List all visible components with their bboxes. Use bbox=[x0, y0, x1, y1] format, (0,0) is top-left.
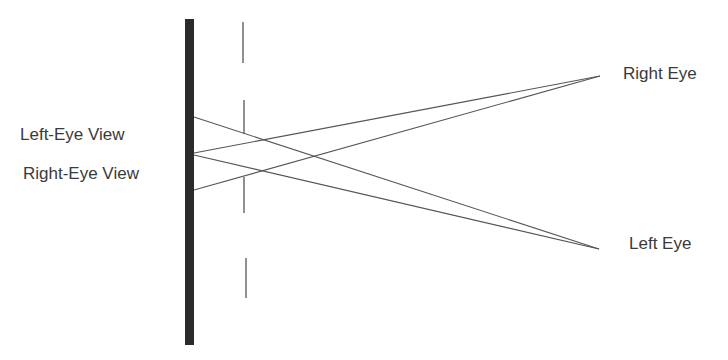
left-eye-view-label: Left-Eye View bbox=[20, 126, 125, 143]
ray-to-right-eye bbox=[194, 76, 600, 190]
left-eye-label: Left Eye bbox=[629, 235, 691, 252]
right-eye-label: Right Eye bbox=[623, 65, 697, 82]
display-screen-bar bbox=[185, 19, 194, 345]
ray-to-right-eye bbox=[194, 76, 600, 153]
view-rays bbox=[194, 76, 600, 249]
right-eye-view-label: Right-Eye View bbox=[23, 165, 139, 182]
parallax-barrier bbox=[243, 22, 246, 298]
ray-to-left-eye bbox=[194, 155, 599, 249]
ray-to-left-eye bbox=[194, 117, 599, 249]
